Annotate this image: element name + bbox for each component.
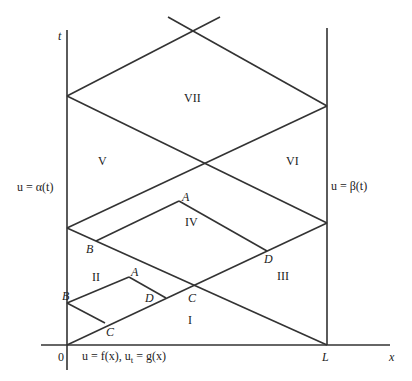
region-IV: IV [185, 216, 198, 228]
region-VI: VI [286, 155, 299, 167]
initial-condition: u = f(x), ut = g(x) [82, 350, 166, 365]
upper-BA [96, 201, 179, 241]
region-II: II [92, 271, 100, 283]
point-C-middle: C [188, 292, 196, 304]
lower-BC [67, 303, 105, 323]
point-C-lower: C [106, 326, 114, 338]
point-B-lower: B [62, 290, 69, 302]
right-boundary-condition: u = β(t) [331, 180, 367, 192]
t-axis-label: t [58, 30, 61, 42]
L-label: L [322, 351, 329, 363]
point-B-upper: B [86, 243, 93, 255]
region-III: III [277, 270, 289, 282]
origin-label: 0 [58, 351, 64, 363]
point-A-lower: A [131, 266, 138, 278]
region-VII: VII [184, 92, 201, 104]
characteristic-top-left [67, 17, 220, 96]
point-D-upper: D [264, 253, 273, 265]
x-axis-label: x [389, 351, 394, 363]
point-D-lower: D [145, 292, 154, 304]
region-I: I [188, 314, 192, 326]
left-boundary-condition: u = α(t) [17, 181, 53, 193]
region-V: V [98, 155, 107, 167]
point-A-upper: A [182, 191, 189, 203]
